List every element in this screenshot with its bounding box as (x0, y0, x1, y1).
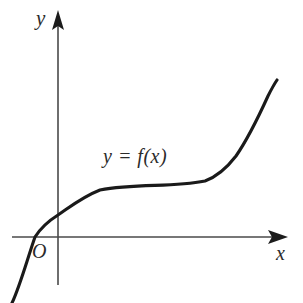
origin-label: O (32, 241, 46, 261)
function-curve (12, 80, 277, 303)
function-graph-figure: y x O y = f(x) (0, 0, 303, 303)
function-equation-label: y = f(x) (103, 146, 167, 166)
x-axis-label: x (276, 243, 285, 263)
y-axis-label: y (36, 8, 45, 29)
